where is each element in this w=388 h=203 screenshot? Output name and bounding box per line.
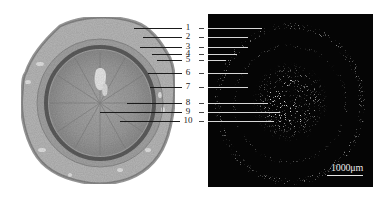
scale-bar-label: 1000μm [331, 163, 363, 173]
leader-line-right [208, 73, 248, 74]
leader-line-left [143, 37, 182, 38]
leader-line-left [127, 103, 182, 104]
label-number: 2 [182, 32, 194, 41]
leader-line-right [208, 37, 248, 38]
leader-tick [199, 37, 204, 38]
leader-tick [199, 112, 204, 113]
leader-tick [199, 73, 204, 74]
leader-line-left [100, 112, 182, 113]
darkfield-micrograph-panel: 1000μm [208, 14, 373, 187]
leader-line-right [208, 47, 248, 48]
leader-tick [199, 60, 204, 61]
label-number: 7 [182, 82, 194, 91]
leader-line-left [140, 47, 182, 48]
leader-tick [199, 87, 204, 88]
scale-bar [327, 175, 363, 176]
leader-line-left [150, 87, 182, 88]
label-number: 5 [182, 55, 194, 64]
leader-line-left [120, 121, 180, 122]
figure: 1000μm 1 2 3 4 5 6 7 [0, 0, 388, 203]
leader-line-right [208, 60, 226, 61]
label-number: 10 [180, 116, 196, 125]
leader-line-left [152, 54, 182, 55]
leader-line-right [208, 28, 262, 29]
leader-line-right [208, 112, 280, 113]
leader-line-right [208, 54, 237, 55]
leader-line-right [208, 121, 274, 122]
leader-tick [199, 28, 204, 29]
leader-tick [199, 54, 204, 55]
leader-line-left [157, 60, 182, 61]
leader-line-right [208, 103, 268, 104]
label-number: 6 [182, 68, 194, 77]
leader-line-left [134, 28, 182, 29]
stained-cross-section-image [0, 0, 200, 203]
leader-tick [199, 103, 204, 104]
leader-tick [199, 47, 204, 48]
leader-line-right [208, 87, 248, 88]
leader-line-left [148, 73, 182, 74]
leader-tick [199, 121, 204, 122]
